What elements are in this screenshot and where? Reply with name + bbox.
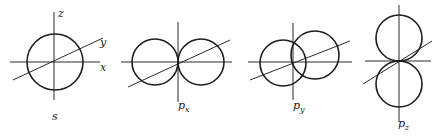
px-label: px — [178, 99, 190, 114]
pz-label: pz — [398, 117, 410, 132]
s-label: s — [52, 110, 58, 123]
y-axis-label: y — [99, 36, 107, 49]
panel-pz-orbital: pz — [363, 5, 432, 132]
panel-px-orbital: px — [121, 22, 232, 114]
py-label: py — [293, 99, 305, 114]
panel-py-orbital: py — [248, 23, 352, 114]
py-lobe-front — [260, 40, 306, 86]
x-axis-label: x — [100, 61, 107, 74]
orbital-diagram: z y x s px py pz — [0, 0, 442, 139]
panel-s-orbital: z y x s — [10, 7, 107, 123]
z-axis-label: z — [57, 7, 64, 20]
